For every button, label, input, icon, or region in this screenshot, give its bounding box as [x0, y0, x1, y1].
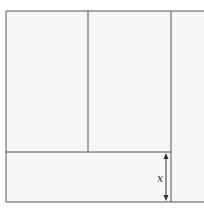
diagram-canvas: x — [0, 0, 204, 209]
dimension-label: x — [157, 172, 164, 185]
square-background — [6, 11, 204, 202]
